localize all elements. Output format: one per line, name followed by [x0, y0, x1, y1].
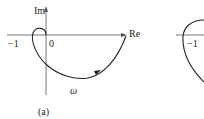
real-axis-label: Re — [129, 29, 140, 39]
omega-label: ω — [70, 86, 77, 96]
tick-minus-one: −1 — [8, 39, 19, 49]
nyquist-diagram — [0, 0, 204, 119]
caption-a: (a) — [38, 107, 49, 117]
origin-label: 0 — [49, 39, 54, 49]
tick-minus-one-b: −1 — [187, 39, 198, 49]
nyquist-curve-a — [32, 28, 126, 78]
nyquist-curve-b — [183, 20, 204, 82]
imag-axis-label: Im — [34, 6, 45, 16]
